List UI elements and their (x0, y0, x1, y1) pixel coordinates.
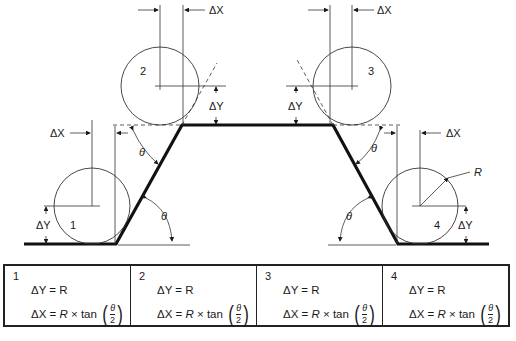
circle-label-1: 1 (70, 219, 76, 231)
delta-y-equation: ΔY = R (31, 284, 68, 296)
theta-label: θ (161, 210, 167, 222)
circle-label-3: 3 (368, 65, 374, 77)
delta-y-equation: ΔY = R (157, 284, 194, 296)
theta-label: θ (371, 142, 377, 154)
delta-y-equation: ΔY = R (409, 284, 446, 296)
formula-table: 1 ΔY = R ΔX = R × tan (θ2) 2 ΔY = R ΔX =… (3, 264, 510, 327)
formula-cell-2: 2 ΔY = R ΔX = R × tan (θ2) (131, 266, 257, 325)
delta-x-equation: ΔX = R × tan (θ2) (157, 302, 251, 326)
delta-y-equation: ΔY = R (283, 284, 320, 296)
cell-number: 3 (265, 270, 271, 282)
cutter-circle-2: 2 ΔX ΔY (121, 4, 226, 125)
cell-number: 2 (139, 270, 145, 282)
part-profile (24, 125, 489, 244)
tool-radius-compensation-diagram: 1 ΔX ΔY 2 ΔX ΔY 3 ΔX ΔY (0, 0, 516, 264)
cell-number: 4 (391, 270, 397, 282)
circle-label-4: 4 (434, 219, 440, 231)
cell-number: 1 (13, 270, 19, 282)
delta-y-label: ΔY (458, 219, 473, 231)
circle-label-2: 2 (140, 65, 146, 77)
theta-label: θ (139, 146, 145, 158)
radius-label: R (474, 166, 482, 178)
cutter-circle-1: 1 ΔX ΔY (36, 120, 130, 244)
delta-x-equation: ΔX = R × tan (θ2) (409, 302, 503, 326)
delta-x-label: ΔX (50, 127, 65, 139)
delta-y-label: ΔY (36, 219, 51, 231)
delta-y-label: ΔY (288, 100, 303, 112)
formula-cell-3: 3 ΔY = R ΔX = R × tan (θ2) (257, 266, 383, 325)
delta-y-label: ΔY (209, 100, 224, 112)
cutter-circle-4: 4 R ΔX ΔY (382, 126, 482, 244)
delta-x-label: ΔX (209, 4, 224, 16)
delta-x-label: ΔX (446, 127, 461, 139)
formula-cell-4: 4 ΔY = R ΔX = R × tan (θ2) (383, 266, 508, 325)
delta-x-equation: ΔX = R × tan (θ2) (283, 302, 377, 326)
formula-cell-1: 1 ΔY = R ΔX = R × tan (θ2) (5, 266, 131, 325)
delta-x-label: ΔX (377, 4, 392, 16)
cutter-circle-3: 3 ΔX ΔY (286, 4, 392, 125)
theta-label: θ (346, 210, 352, 222)
delta-x-equation: ΔX = R × tan (θ2) (31, 302, 125, 326)
